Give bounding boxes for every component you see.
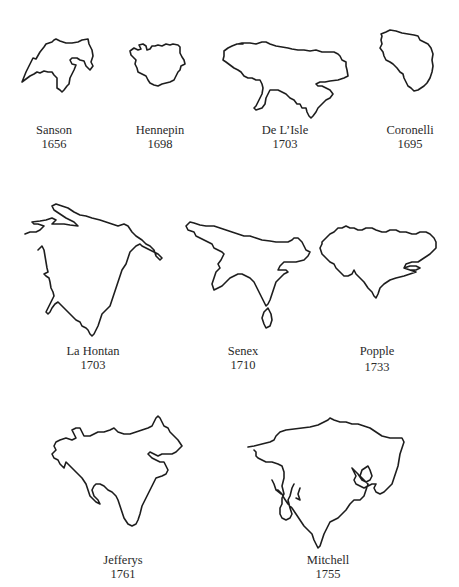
map-year: 1761 — [63, 568, 183, 582]
delisle-outline — [223, 42, 348, 118]
coronelli-outline — [380, 30, 433, 91]
cartographer-name: Hennepin — [100, 124, 220, 138]
map-year: 1733 — [317, 361, 437, 375]
map-outlines-canvas — [0, 0, 459, 587]
cartographer-name: Sanson — [0, 124, 114, 138]
map-year: 1755 — [268, 568, 388, 582]
cartographer-name: Senex — [183, 345, 303, 359]
caption-jefferys: Jefferys 1761 — [63, 554, 183, 581]
map-year: 1656 — [0, 138, 114, 152]
caption-sanson: Sanson 1656 — [0, 124, 114, 151]
cartographer-name: Jefferys — [63, 554, 183, 568]
cartographer-name: Popple — [317, 345, 437, 359]
map-year: 1703 — [33, 359, 153, 373]
cartographer-name: Coronelli — [350, 124, 459, 138]
mitchell-outline — [248, 418, 404, 548]
map-year: 1698 — [100, 138, 220, 152]
map-year: 1710 — [183, 359, 303, 373]
map-year: 1703 — [225, 138, 345, 152]
map-year: 1695 — [350, 138, 459, 152]
cartographer-name: Mitchell — [268, 554, 388, 568]
caption-senex: Senex 1710 — [183, 345, 303, 372]
caption-popple: Popple 1733 — [317, 345, 437, 374]
lahontan-outline — [25, 204, 162, 336]
jefferys-outline — [52, 416, 182, 526]
caption-mitchell: Mitchell 1755 — [268, 554, 388, 581]
hennepin-outline — [130, 44, 185, 86]
caption-lahontan: La Hontan 1703 — [33, 345, 153, 372]
sanson-outline — [22, 39, 93, 92]
caption-hennepin: Hennepin 1698 — [100, 124, 220, 151]
caption-delisle: De L’Isle 1703 — [225, 124, 345, 151]
popple-outline — [320, 226, 436, 298]
senex-outline — [186, 222, 310, 328]
cartographer-name: La Hontan — [33, 345, 153, 359]
cartographer-name: De L’Isle — [225, 124, 345, 138]
caption-coronelli: Coronelli 1695 — [350, 124, 459, 151]
